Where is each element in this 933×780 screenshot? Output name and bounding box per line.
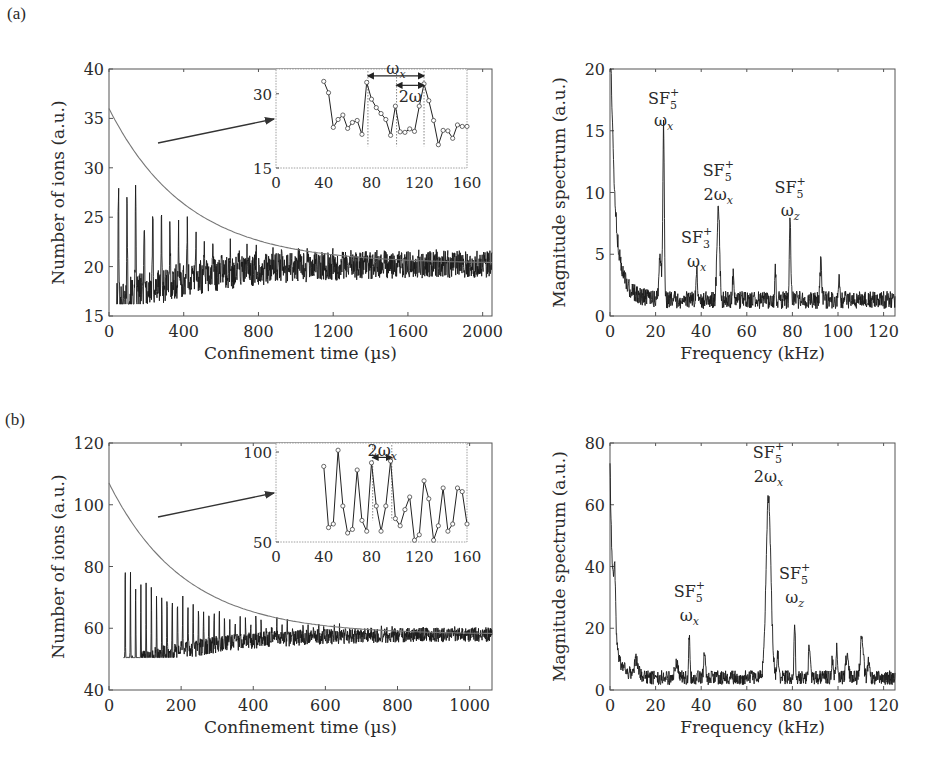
inset-data-point — [412, 538, 416, 542]
y-tick-label: 20 — [84, 258, 104, 277]
inset-data-point — [427, 99, 431, 103]
y-tick-label: 15 — [585, 122, 605, 141]
x-tick-label: 1200 — [313, 322, 354, 341]
panel-label-b: (b) — [5, 410, 25, 430]
peak-label-mode: ωx — [654, 111, 674, 133]
inset-data-point — [460, 490, 464, 494]
y-tick-label: 120 — [73, 434, 104, 453]
inset-data-point — [441, 486, 445, 490]
inset-x-tick-label: 160 — [453, 174, 482, 192]
peak-label-ion: SF5+ — [648, 86, 679, 112]
y-axis-label: Magnitude spectrum (a.u.) — [549, 77, 569, 308]
inset-data-point — [360, 132, 364, 136]
peak-label-mode: 2ωx — [754, 467, 784, 489]
x-tick-label: 0 — [104, 696, 114, 715]
y-tick-label: 0 — [595, 307, 605, 326]
x-axis-label: Frequency (kHz) — [680, 717, 825, 737]
peak-label-ion: SF5+ — [779, 561, 810, 587]
y-tick-label: 25 — [84, 208, 104, 227]
x-tick-label: 80 — [782, 322, 802, 341]
plot-frame — [610, 443, 895, 690]
inset-frame — [276, 69, 467, 168]
inset-x-tick-label: 40 — [314, 174, 333, 192]
x-tick-label: 800 — [382, 696, 413, 715]
x-tick-label: 2000 — [462, 322, 503, 341]
inset-data-point — [427, 497, 431, 501]
y-tick-label: 60 — [84, 619, 104, 638]
x-tick-label: 60 — [737, 322, 757, 341]
x-axis-label: Frequency (kHz) — [680, 343, 825, 363]
period-annotation: ωx — [386, 59, 406, 81]
x-tick-label: 0 — [104, 322, 114, 341]
inset-data-point — [403, 508, 407, 512]
chart-b-time-series: 02004006008001000406080100120Confinement… — [48, 434, 492, 737]
x-tick-label: 1600 — [388, 322, 429, 341]
inset-data-point — [355, 468, 359, 472]
inset-data-point — [322, 79, 326, 83]
inset-data-point — [346, 126, 350, 130]
panel-label-a: (a) — [7, 4, 26, 24]
chart-b-spectrum: 020406080100120020406080Frequency (kHz)M… — [549, 434, 899, 737]
inset-data-point — [451, 136, 455, 140]
peak-label-ion: SF5+ — [674, 579, 705, 605]
inset-data-point — [336, 117, 340, 121]
inset-data-point — [326, 526, 330, 530]
inset-x-tick-label: 120 — [405, 548, 434, 566]
inset-x-tick-label: 0 — [271, 548, 281, 566]
inset-data-point — [365, 529, 369, 533]
inset-data-point — [436, 143, 440, 147]
y-tick-label: 80 — [84, 558, 104, 577]
inset-data-point — [455, 123, 459, 127]
inset-data-point — [369, 461, 373, 465]
inset-data-point — [350, 120, 354, 124]
inset-data-point — [355, 118, 359, 122]
x-axis-label: Confinement time (µs) — [204, 717, 397, 737]
inset-x-tick-label: 0 — [271, 174, 281, 192]
y-tick-label: 10 — [585, 184, 605, 203]
y-tick-label: 40 — [585, 558, 605, 577]
x-tick-label: 200 — [166, 696, 197, 715]
inset-data-point — [326, 91, 330, 95]
inset-data-point — [451, 522, 455, 526]
inset-data-point — [384, 504, 388, 508]
inset-data-point — [384, 117, 388, 121]
x-tick-label: 0 — [605, 322, 615, 341]
x-tick-label: 20 — [645, 322, 665, 341]
y-tick-label: 30 — [84, 159, 104, 178]
inset-y-tick-label: 50 — [253, 534, 272, 552]
inset-data-point — [389, 133, 393, 137]
y-tick-label: 60 — [585, 496, 605, 515]
inset-data-point — [408, 127, 412, 131]
peak-label-mode: ωz — [781, 201, 800, 223]
y-tick-label: 20 — [585, 60, 605, 79]
inset-data-point — [336, 448, 340, 452]
inset-data-point — [422, 479, 426, 483]
peak-label-mode: ωx — [680, 606, 700, 628]
zoom-arrow — [158, 493, 274, 517]
x-tick-label: 1000 — [449, 696, 490, 715]
zoom-arrow — [158, 119, 274, 143]
signal-trace — [117, 185, 492, 304]
inset-data-point — [365, 80, 369, 84]
inset-data-point — [465, 522, 469, 526]
inset-data-point — [331, 125, 335, 129]
spectrum-trace — [610, 463, 895, 685]
inset-data-point — [417, 533, 421, 537]
signal-trace — [123, 572, 492, 657]
y-tick-label: 100 — [73, 496, 104, 515]
inset-data-point — [455, 486, 459, 490]
inset-data-point — [360, 518, 364, 522]
inset-data-point — [393, 517, 397, 521]
inset-data-point — [460, 124, 464, 128]
inset-data-point — [346, 531, 350, 535]
x-tick-label: 60 — [737, 696, 757, 715]
inset-data-point — [379, 529, 383, 533]
inset-data-point — [393, 104, 397, 108]
x-tick-label: 100 — [823, 696, 854, 715]
x-tick-label: 800 — [243, 322, 274, 341]
y-axis-label: Magnitude spectrum (a.u.) — [549, 451, 569, 682]
inset-data-point — [431, 538, 435, 542]
inset-x-tick-label: 80 — [362, 548, 381, 566]
inset-x-tick-label: 160 — [453, 548, 482, 566]
peak-label-mode: 2ωx — [704, 185, 734, 207]
